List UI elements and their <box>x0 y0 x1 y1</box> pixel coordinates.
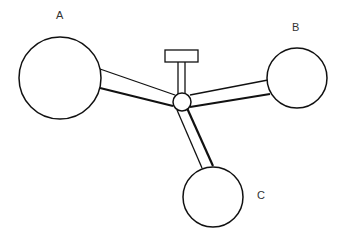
label-a: A <box>56 9 64 21</box>
node-b <box>267 48 327 108</box>
node-c <box>183 167 243 227</box>
diagram-canvas: A B C <box>0 0 340 245</box>
top-block <box>165 50 198 62</box>
label-c: C <box>257 189 265 201</box>
hub <box>173 93 191 111</box>
label-b: B <box>292 21 299 33</box>
arm-c <box>177 108 213 168</box>
arm-a <box>100 69 175 106</box>
stem <box>178 62 185 94</box>
arm-b <box>190 80 270 107</box>
node-a <box>19 37 101 119</box>
